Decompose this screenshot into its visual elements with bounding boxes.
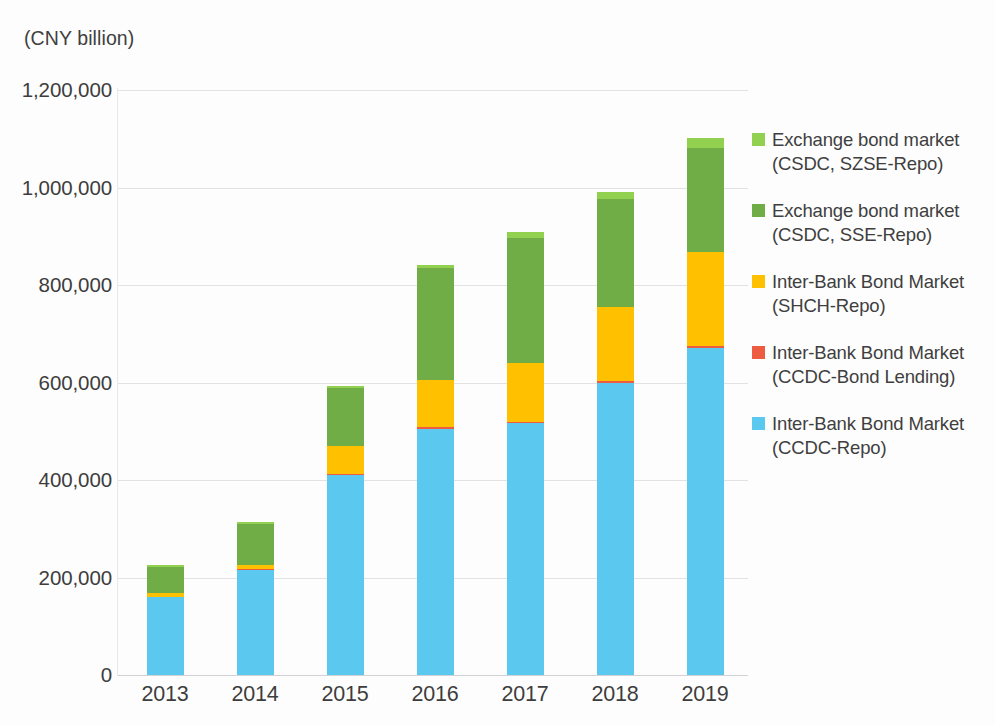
legend-label-line1: Inter-Bank Bond Market [772, 413, 964, 434]
bar-2017[interactable] [507, 232, 544, 675]
y-axis-tick-label: 1,000,000 [0, 176, 112, 200]
x-axis-tick-label: 2019 [660, 682, 750, 707]
legend-label: Inter-Bank Bond Market(SHCH-Repo) [772, 270, 964, 318]
bar-2015[interactable] [327, 386, 364, 675]
bar-segment[interactable] [687, 148, 724, 252]
x-axis-tick-label: 2013 [120, 682, 210, 707]
gridline [118, 675, 748, 676]
legend-swatch-icon [752, 133, 765, 146]
legend-label-line2: (CSDC, SSE-Repo) [772, 223, 959, 247]
legend-swatch-icon [752, 275, 765, 288]
legend-item[interactable]: Exchange bond market(CSDC, SZSE-Repo) [752, 128, 992, 176]
bar-segment[interactable] [147, 567, 184, 593]
legend-label-line1: Inter-Bank Bond Market [772, 342, 964, 363]
y-axis-unit-label: (CNY billion) [24, 27, 134, 50]
bar-segment[interactable] [417, 429, 454, 675]
y-axis-tick-label: 400,000 [0, 468, 112, 492]
bar-segment[interactable] [147, 597, 184, 675]
bar-segment[interactable] [507, 423, 544, 675]
gridline [118, 188, 748, 189]
legend-swatch-icon [752, 346, 765, 359]
legend-label-line1: Exchange bond market [772, 200, 959, 221]
bar-2019[interactable] [687, 138, 724, 675]
bar-segment[interactable] [507, 238, 544, 362]
y-axis-tick-label: 1,200,000 [0, 78, 112, 102]
legend-label: Inter-Bank Bond Market(CCDC-Repo) [772, 412, 964, 460]
x-axis-tick-label: 2015 [300, 682, 390, 707]
bar-segment[interactable] [687, 252, 724, 346]
bar-segment[interactable] [687, 138, 724, 148]
x-axis-tick-label: 2016 [390, 682, 480, 707]
y-axis-tick-label: 0 [0, 663, 112, 687]
y-axis-tick-labels: 1,200,0001,000,000800,000600,000400,0002… [0, 90, 112, 675]
x-axis-tick-label: 2018 [570, 682, 660, 707]
bar-segment[interactable] [417, 268, 454, 380]
bar-2018[interactable] [597, 192, 634, 675]
bar-segment[interactable] [597, 199, 634, 307]
legend-label: Exchange bond market(CSDC, SZSE-Repo) [772, 128, 959, 176]
bar-segment[interactable] [417, 380, 454, 427]
legend-item[interactable]: Inter-Bank Bond Market(CCDC-Repo) [752, 412, 992, 460]
bar-segment[interactable] [237, 524, 274, 565]
bar-segment[interactable] [327, 475, 364, 675]
bar-2014[interactable] [237, 522, 274, 675]
y-axis-tick-label: 800,000 [0, 273, 112, 297]
legend-label-line1: Exchange bond market [772, 129, 959, 150]
legend-label-line2: (CSDC, SZSE-Repo) [772, 152, 959, 176]
legend-swatch-icon [752, 204, 765, 217]
bar-segment[interactable] [597, 383, 634, 676]
y-axis-tick-label: 600,000 [0, 371, 112, 395]
plot-area [118, 90, 748, 675]
bar-segment[interactable] [687, 348, 724, 675]
legend-swatch-icon [752, 417, 765, 430]
legend-label-line1: Inter-Bank Bond Market [772, 271, 964, 292]
x-axis-tick-label: 2017 [480, 682, 570, 707]
legend-label-line2: (SHCH-Repo) [772, 294, 964, 318]
bar-segment[interactable] [597, 307, 634, 381]
legend-label: Inter-Bank Bond Market(CCDC-Bond Lending… [772, 341, 964, 389]
legend-item[interactable]: Inter-Bank Bond Market(CCDC-Bond Lending… [752, 341, 992, 389]
bar-2016[interactable] [417, 265, 454, 675]
bar-segment[interactable] [327, 388, 364, 446]
legend-label: Exchange bond market(CSDC, SSE-Repo) [772, 199, 959, 247]
x-axis-tick-label: 2014 [210, 682, 300, 707]
bar-segment[interactable] [507, 363, 544, 422]
legend-label-line2: (CCDC-Repo) [772, 436, 964, 460]
y-axis-tick-label: 200,000 [0, 566, 112, 590]
bar-segment[interactable] [327, 446, 364, 474]
legend-label-line2: (CCDC-Bond Lending) [772, 365, 964, 389]
bar-segment[interactable] [237, 570, 274, 675]
legend-item[interactable]: Inter-Bank Bond Market(SHCH-Repo) [752, 270, 992, 318]
chart-legend: Exchange bond market(CSDC, SZSE-Repo)Exc… [752, 128, 992, 483]
bar-segment[interactable] [507, 232, 544, 239]
stacked-bar-chart: (CNY billion) 1,200,0001,000,000800,0006… [0, 0, 995, 725]
gridline [118, 90, 748, 91]
x-axis-tick-labels: 2013201420152016201720182019 [118, 682, 748, 722]
legend-item[interactable]: Exchange bond market(CSDC, SSE-Repo) [752, 199, 992, 247]
bar-2013[interactable] [147, 565, 184, 675]
